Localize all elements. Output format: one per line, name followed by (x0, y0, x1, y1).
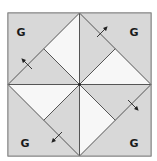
corner-label-top-right: G (129, 26, 138, 39)
center-point (78, 83, 81, 86)
quilt-block-diagram: G G G G (0, 0, 157, 161)
corner-label-top-left: G (16, 26, 25, 39)
corner-label-bottom-right: G (129, 137, 138, 150)
corner-label-bottom-left: G (20, 137, 29, 150)
